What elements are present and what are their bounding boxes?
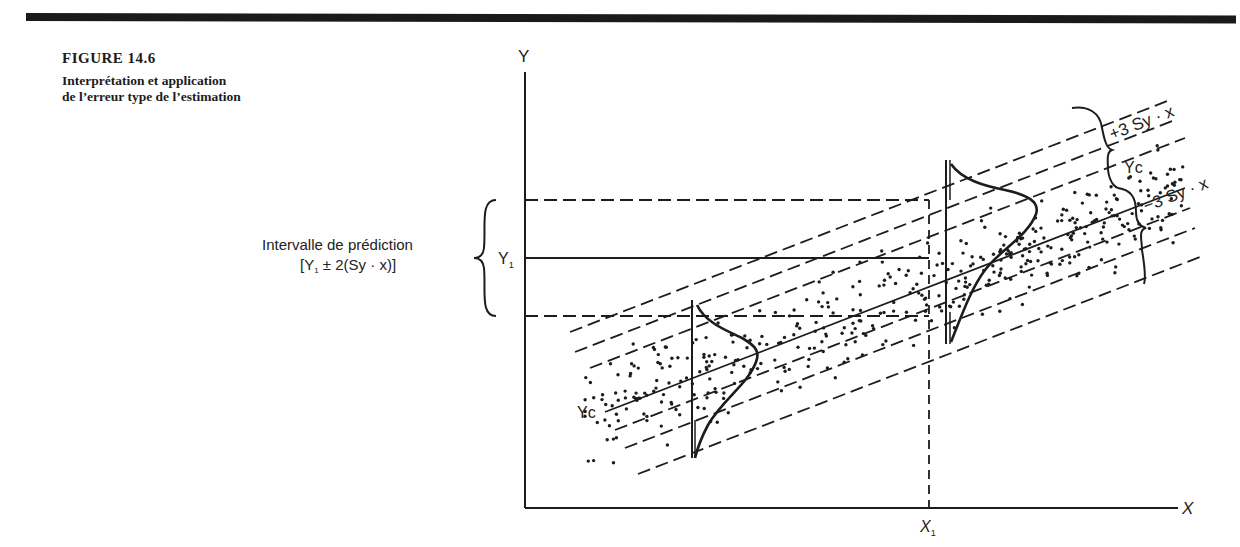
band-line-minus3 xyxy=(638,257,1200,474)
band-line-plus1 xyxy=(590,138,1185,368)
yc-left-label: Yc xyxy=(577,404,596,421)
left-normal-curve xyxy=(695,305,757,458)
x-axis-label: X xyxy=(1181,499,1194,518)
prediction-interval-brace xyxy=(474,200,496,316)
regression-diagram: Y X X1 Y1 Intervalle de prédiction [Y1 ±… xyxy=(0,0,1240,547)
plus3-label: +3 Sy · x xyxy=(1107,102,1177,144)
band-line-minus1 xyxy=(615,208,1190,430)
axes xyxy=(525,72,1178,508)
band-line-plus2 xyxy=(575,120,1175,352)
band-line-plus3 xyxy=(570,100,1170,332)
prediction-interval-label: Intervalle de prédiction xyxy=(262,236,413,253)
band-line-minus2 xyxy=(625,228,1195,448)
regression-band xyxy=(570,100,1200,474)
x1-label: X1 xyxy=(919,518,936,538)
plus3-brace xyxy=(1072,108,1118,188)
minus3-label: −3 Sy · x xyxy=(1141,174,1211,216)
y-axis-label: Y xyxy=(518,47,529,66)
y1-label: Y1 xyxy=(498,250,514,270)
yc-right-label: Yc xyxy=(1124,159,1143,176)
prediction-interval-formula: [Y1 ± 2(Sy · x)] xyxy=(300,256,396,275)
